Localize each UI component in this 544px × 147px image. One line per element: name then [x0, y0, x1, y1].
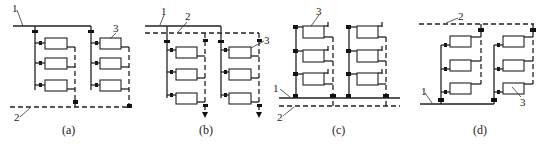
panel-d: 2	[419, 10, 536, 137]
panel-c: 3 1	[273, 5, 400, 137]
label-3: 3	[316, 5, 322, 17]
label-2: 2	[14, 111, 20, 123]
label-2: 2	[277, 111, 283, 123]
caption-b: (b)	[199, 123, 213, 137]
panel-b: 1 2	[145, 5, 270, 137]
caption-c: (c)	[332, 123, 345, 137]
label-3: 3	[520, 96, 526, 108]
heating-piping-diagram: 1	[0, 0, 544, 147]
label-3: 3	[113, 22, 119, 34]
label-1: 1	[12, 2, 18, 14]
caption-d: (d)	[473, 123, 487, 137]
label-2: 2	[458, 10, 464, 22]
caption-a: (a)	[62, 123, 75, 137]
label-1: 1	[161, 5, 167, 17]
label-2: 2	[185, 10, 191, 22]
panel-a: 1	[10, 2, 132, 137]
label-1: 1	[421, 85, 427, 97]
label-3: 3	[264, 34, 270, 46]
label-1: 1	[273, 82, 279, 94]
